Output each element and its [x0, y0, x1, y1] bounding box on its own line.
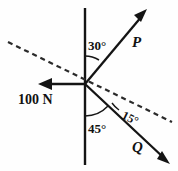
angle-label-45: 45° — [88, 121, 106, 136]
vector-label-p: P — [132, 34, 142, 50]
force-label-100n: 100 N — [18, 92, 53, 107]
vector-label-q: Q — [132, 139, 143, 155]
force-diagram-container: 30° 45° 15° 100 N P Q — [0, 0, 178, 171]
force-diagram-canvas: 30° 45° 15° 100 N P Q — [0, 0, 178, 171]
angle-label-30: 30° — [88, 38, 106, 53]
